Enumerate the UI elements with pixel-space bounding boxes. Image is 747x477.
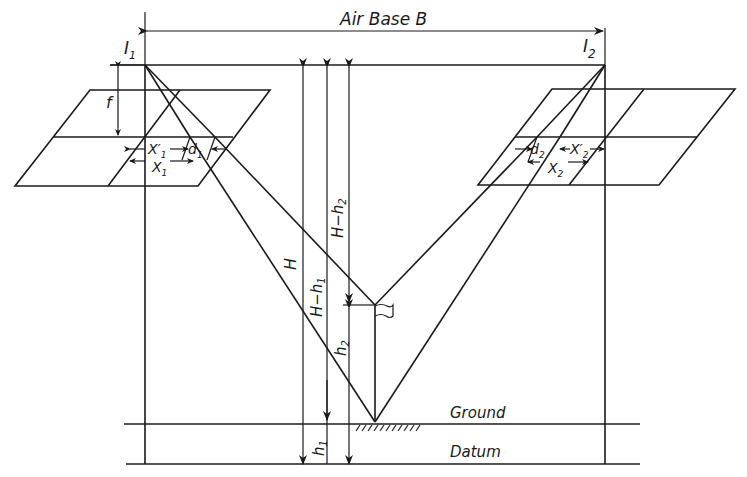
x2-prime-label: X′2 <box>569 141 589 160</box>
photo-plane-1 <box>15 90 270 186</box>
h2-label: h2 <box>332 340 351 356</box>
datum-line: Datum <box>126 443 640 464</box>
flag-pole <box>375 305 393 423</box>
h1-label: h1 <box>310 440 329 456</box>
stereo-parallax-diagram: Air Base B I1 I2 f X′1 d1 X1 <box>0 0 747 477</box>
exposure-2-label: I2 <box>583 36 596 61</box>
focal-length-dimension: f <box>106 65 145 135</box>
air-base-dimension: Air Base B <box>145 9 605 65</box>
h-minus-h1-label: H−h1 <box>308 277 327 317</box>
x2-label: X2 <box>547 160 564 179</box>
rays-exposure-2 <box>375 65 605 422</box>
flying-height-label: H <box>281 258 300 270</box>
height-dimensions: H H−h1 H−h2 h2 h1 <box>281 67 375 464</box>
x1-label: X1 <box>151 159 167 178</box>
exposure-1-label: I1 <box>124 38 136 62</box>
h-minus-h2-label: H−h2 <box>329 198 348 238</box>
focal-length-label: f <box>106 93 114 112</box>
d1-label: d1 <box>188 141 203 160</box>
rays-exposure-1 <box>145 65 375 422</box>
x1-prime-label: X′1 <box>147 141 167 160</box>
datum-label: Datum <box>450 443 501 461</box>
ground-line: Ground <box>124 404 640 431</box>
photo-plane-2 <box>478 89 735 185</box>
air-base-label: Air Base B <box>339 9 427 29</box>
ground-label: Ground <box>450 404 506 422</box>
